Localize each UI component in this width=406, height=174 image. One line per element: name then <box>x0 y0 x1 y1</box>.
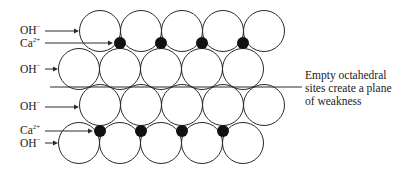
hydroxide-ion-circle <box>182 123 223 164</box>
hydroxide-ion-circle <box>182 49 223 90</box>
hydroxide-ion-circle <box>244 85 285 126</box>
annotation-line-1: Empty octahedral <box>305 69 392 82</box>
label-base: Ca <box>20 124 33 136</box>
arrow-head-icon <box>108 41 113 46</box>
annotation-plane-of-weakness: Empty octahedral sites create a plane of… <box>305 69 392 107</box>
calcium-ion-dot <box>155 37 167 49</box>
calcium-ion-dot <box>135 125 147 137</box>
hydroxide-ion-circle <box>80 11 121 52</box>
arrow-head-icon <box>53 67 58 72</box>
label-charge: − <box>37 62 41 70</box>
hydroxide-ion-circle <box>162 11 203 52</box>
label-base: OH <box>20 137 37 149</box>
hydroxide-ion-circle <box>203 11 244 52</box>
hydroxide-ion-circle <box>244 11 285 52</box>
label-base: OH <box>20 24 37 36</box>
hydroxide-ion-circle <box>141 49 182 90</box>
label-base: OH <box>20 100 37 112</box>
hydroxide-ion-circle <box>59 49 100 90</box>
hydroxide-ion-circle <box>100 49 141 90</box>
label-ca1: Ca2+ <box>20 38 40 50</box>
label-ca2: Ca2+ <box>20 125 40 137</box>
arrow-head-icon <box>74 105 79 110</box>
arrow-head-icon <box>88 129 93 134</box>
annotation-line-3: of weakness <box>305 95 392 108</box>
hydroxide-ion-circle <box>141 123 182 164</box>
label-base: Ca <box>20 37 33 49</box>
hydroxide-ion-circle <box>223 49 264 90</box>
calcium-ion-dot <box>94 125 106 137</box>
label-oh3: OH− <box>20 101 41 113</box>
arrow-head-icon <box>53 141 58 146</box>
hydroxide-ion-circle <box>121 85 162 126</box>
hydroxide-ion-circle <box>59 123 100 164</box>
label-charge: 2+ <box>33 36 40 44</box>
hydroxide-ion-circle <box>121 11 162 52</box>
hydroxide-ion-circle <box>162 85 203 126</box>
calcium-ion-dot <box>217 125 229 137</box>
calcium-ion-dot <box>114 37 126 49</box>
hydroxide-ion-circle <box>223 123 264 164</box>
label-oh2: OH− <box>20 64 41 76</box>
calcium-ion-dot <box>176 125 188 137</box>
label-charge: − <box>37 99 41 107</box>
hydroxide-ion-circle <box>203 85 244 126</box>
label-oh1: OH− <box>20 25 41 37</box>
calcium-ion-dot <box>237 37 249 49</box>
label-base: OH <box>20 63 37 75</box>
hydroxide-ion-circle <box>80 85 121 126</box>
hydroxide-ion-circle <box>100 123 141 164</box>
arrow-head-icon <box>74 29 79 34</box>
label-charge: 2+ <box>33 123 40 131</box>
label-oh4: OH− <box>20 138 41 150</box>
annotation-line-2: sites create a plane <box>305 82 392 95</box>
label-charge: − <box>37 136 41 144</box>
label-charge: − <box>37 23 41 31</box>
calcium-ion-dot <box>196 37 208 49</box>
